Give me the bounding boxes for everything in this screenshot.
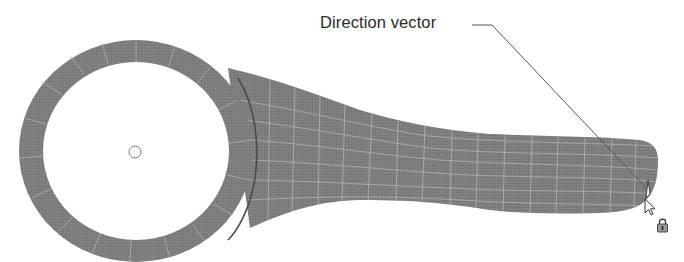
arrow-pointer-icon [645, 199, 655, 215]
diagram-canvas [0, 0, 684, 262]
hub-ring [19, 40, 257, 262]
hub-bore [43, 62, 229, 240]
arm-shaft [228, 68, 660, 228]
direction-vector-label: Direction vector [320, 13, 436, 32]
lock-icon [658, 219, 668, 232]
